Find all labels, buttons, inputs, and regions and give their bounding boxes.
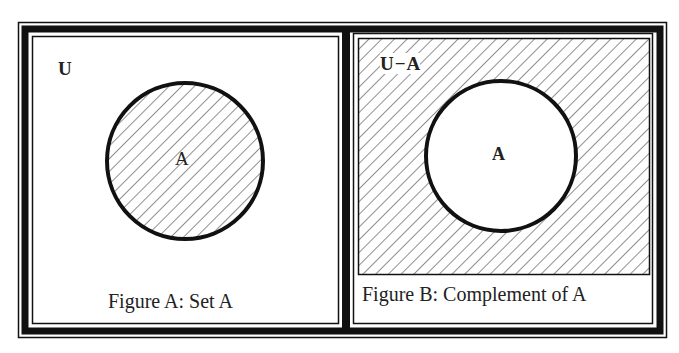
- caption-figure-b: Figure B: Complement of A: [362, 283, 586, 306]
- set-symbol: A: [407, 53, 421, 74]
- universe-minus-a-label: U−A: [380, 53, 420, 75]
- caption-figure-a: Figure A: Set A: [108, 290, 233, 313]
- venn-diagram-figure: U A Figure A: Set A U−A A Figure B: Comp…: [0, 0, 679, 353]
- universe-label-a: U: [58, 58, 72, 80]
- minus-operator: −: [394, 53, 407, 74]
- panel-divider: [342, 29, 350, 331]
- set-label-b: A: [492, 144, 505, 165]
- set-label-a: A: [175, 148, 189, 170]
- panel-figure-a: [29, 33, 342, 327]
- universe-symbol: U: [380, 53, 394, 74]
